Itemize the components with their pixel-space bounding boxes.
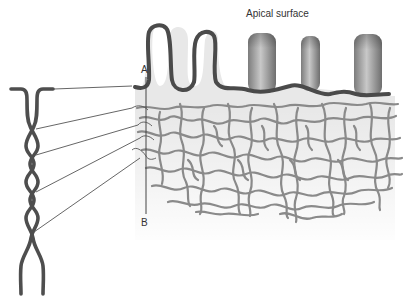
microvillus-3 xyxy=(354,34,382,96)
leader-line-4 xyxy=(36,138,140,192)
apical-surface-label: Apical surface xyxy=(246,8,309,19)
leader-line-1 xyxy=(54,86,132,89)
leader-line-3 xyxy=(36,125,138,155)
leader-line-5 xyxy=(34,158,140,232)
microvillus-2 xyxy=(301,36,320,91)
marker-b-label: B xyxy=(141,217,148,228)
microvilli xyxy=(248,33,382,96)
leader-line-2 xyxy=(36,108,132,129)
diagram-canvas: Apical surface A B xyxy=(0,0,408,302)
twisted-strand xyxy=(11,89,53,294)
marker-a-label: A xyxy=(141,64,148,75)
cytoplasm-fade xyxy=(130,110,405,250)
diagram-svg xyxy=(0,0,408,302)
microvillus-1 xyxy=(248,33,276,93)
